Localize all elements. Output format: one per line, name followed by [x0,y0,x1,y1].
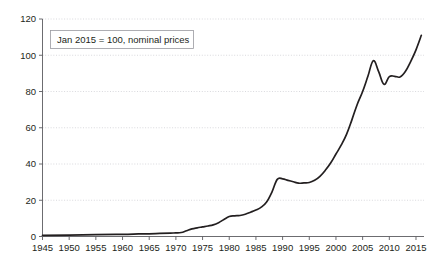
x-tick-label-1945: 1945 [32,242,53,253]
y-tick-label-60: 60 [25,122,36,133]
y-tick-label-20: 20 [25,195,36,206]
y-tickmarks-group [39,19,43,237]
x-tick-label-1965: 1965 [139,242,160,253]
y-tick-label-80: 80 [25,86,36,97]
x-tick-label-1960: 1960 [112,242,133,253]
index-base-annotation: Jan 2015 = 100, nominal prices [51,31,194,49]
y-tick-label-0: 0 [31,231,36,242]
x-tick-label-2010: 2010 [379,242,400,253]
y-tick-label-100: 100 [20,50,36,61]
x-tick-label-1990: 1990 [272,242,293,253]
y-tick-label-120: 120 [20,13,36,24]
x-tick-label-1955: 1955 [85,242,106,253]
house-price-index-chart: 020406080100120 194519501955196019651970… [0,0,433,264]
x-tick-label-2000: 2000 [325,242,346,253]
x-tick-label-2005: 2005 [352,242,373,253]
x-tick-label-1950: 1950 [59,242,80,253]
y-tick-label-40: 40 [25,158,36,169]
annotation-label: Jan 2015 = 100, nominal prices [57,34,190,45]
chart-canvas: 020406080100120 194519501955196019651970… [0,0,433,264]
x-tick-label-1995: 1995 [299,242,320,253]
y-axis-tick-labels: 020406080100120 [20,13,36,242]
x-axis-tick-labels: 1945195019551960196519701975198019851990… [32,242,427,253]
series-line-0 [43,35,422,235]
x-tick-label-1975: 1975 [192,242,213,253]
x-tick-label-1970: 1970 [165,242,186,253]
x-tick-label-2015: 2015 [405,242,426,253]
x-tick-label-1980: 1980 [219,242,240,253]
data-series-group [43,35,422,235]
x-tick-label-1985: 1985 [245,242,266,253]
x-tickmarks-group [43,237,416,241]
